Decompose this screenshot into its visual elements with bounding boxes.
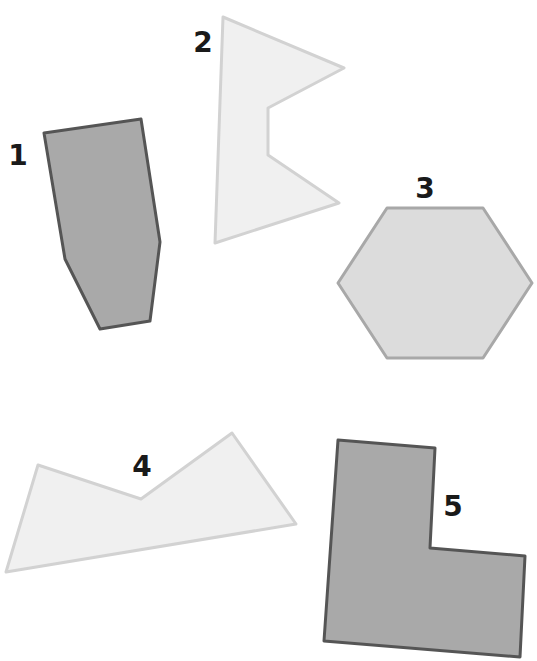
- shape-1-label: 1: [8, 139, 27, 172]
- shapes-canvas: 1 2 3 4 5: [0, 0, 537, 661]
- shape-1: 1: [8, 119, 160, 329]
- shape-3-polygon: [338, 208, 532, 358]
- shape-5-polygon: [324, 440, 525, 657]
- shape-2-polygon: [215, 17, 344, 243]
- shape-4-label: 4: [132, 450, 151, 483]
- shape-2-label: 2: [193, 26, 212, 59]
- shape-3: 3: [338, 172, 532, 358]
- shape-1-polygon: [44, 119, 160, 329]
- shape-2: 2: [193, 17, 344, 243]
- shape-4: 4: [6, 433, 296, 572]
- shape-5-label: 5: [443, 490, 462, 523]
- shape-3-label: 3: [415, 172, 434, 205]
- shape-5: 5: [324, 440, 525, 657]
